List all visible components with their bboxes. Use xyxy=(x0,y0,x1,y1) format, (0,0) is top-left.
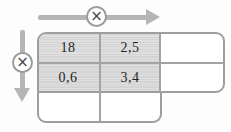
multiply-icon: × xyxy=(90,9,103,24)
table-cell-r2c1: 0,6 xyxy=(37,64,99,92)
multiply-circle-vertical: × xyxy=(12,52,33,73)
table-cell-r2c3-empty xyxy=(161,64,223,92)
table-cell-r2c2: 3,4 xyxy=(101,64,159,92)
table-cell-r1c1: 18 xyxy=(37,33,99,62)
multiply-circle-horizontal: × xyxy=(86,6,107,27)
multiply-icon: × xyxy=(16,55,29,70)
table-cell-r3c2-empty xyxy=(101,93,159,121)
table-cell-r1c3-empty xyxy=(161,33,223,62)
table-cell-r1c2: 2,5 xyxy=(101,33,159,62)
table-cell-r3c1-empty xyxy=(37,93,99,121)
vertical-arrow-head-icon xyxy=(14,88,30,102)
multiplication-grid-diagram: × × 18 2,5 0,6 3,4 xyxy=(0,0,231,132)
horizontal-arrow-head-icon xyxy=(146,9,160,25)
